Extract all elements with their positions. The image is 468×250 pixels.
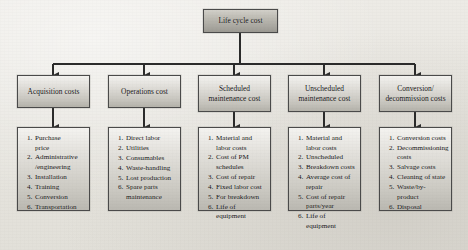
life-cycle-cost-diagram: Life cycle cost Acquisition costs Operat… xyxy=(0,0,468,250)
list-item: Waste/by-product xyxy=(396,183,447,202)
list-item: Spare parts maintenance xyxy=(125,183,176,202)
branch-items-scheduled-maintenance-cost: Material and labor costs Cost of PM sche… xyxy=(198,127,271,211)
list-item: Cleaning of state xyxy=(396,173,447,183)
branch-items-unscheduled-maintenance-cost: Material and labor costs Unscheduled Bre… xyxy=(288,127,361,211)
list-item: Lost production xyxy=(125,174,176,184)
list-item: Transportation xyxy=(34,203,85,213)
branch-heading-operations-cost: Operations cost xyxy=(108,75,181,108)
list-item: Consumables xyxy=(125,154,176,164)
list-item: Training xyxy=(34,183,85,193)
root-box-life-cycle-cost: Life cycle cost xyxy=(203,9,278,33)
list-item: Life of equipment xyxy=(305,212,356,231)
list-item: Waste-handling xyxy=(125,164,176,174)
list-item: Material and labor costs xyxy=(215,134,266,153)
branch-items-conversion-decommission-costs: Conversion costs Decommissioning costs S… xyxy=(379,127,452,211)
list-item: Cost of repair xyxy=(215,173,266,183)
item-list: Material and labor costs Unscheduled Bre… xyxy=(294,134,356,231)
list-item: Installation xyxy=(34,173,85,183)
branch-heading-conversion-decommission-costs: Conversion/ decommission costs xyxy=(379,75,452,112)
list-item: Cost of PM schedules xyxy=(215,153,266,172)
item-list: Purchase price Administrative /engineeri… xyxy=(23,134,85,212)
list-item: Utilities xyxy=(125,144,176,154)
list-item: Average cost of repair xyxy=(305,173,356,192)
root-box-label: Life cycle cost xyxy=(215,16,265,25)
branch-heading-unscheduled-maintenance-cost: Unscheduled maintenance cost xyxy=(288,75,361,112)
item-list: Direct labor Utilities Consumables Waste… xyxy=(114,134,176,203)
branch-items-operations-cost: Direct labor Utilities Consumables Waste… xyxy=(108,127,181,211)
branch-heading-label: Acquisition costs xyxy=(25,87,83,96)
list-item: Life of equipment xyxy=(215,203,266,222)
list-item: Conversion xyxy=(34,193,85,203)
list-item: Material and labor costs xyxy=(305,134,356,153)
list-item: Cost of repair parts/year xyxy=(305,193,356,212)
branch-heading-scheduled-maintenance-cost: Scheduled maintenance cost xyxy=(198,75,271,112)
list-item: Fixed labor cost xyxy=(215,183,266,193)
list-item: Administrative /engineering xyxy=(34,153,85,172)
branch-items-acquisition-costs: Purchase price Administrative /engineeri… xyxy=(17,127,90,211)
list-item: Direct labor xyxy=(125,134,176,144)
branch-heading-acquisition-costs: Acquisition costs xyxy=(17,75,90,108)
list-item: Salvage costs xyxy=(396,163,447,173)
list-item: Conversion costs xyxy=(396,134,447,144)
branch-heading-label: Conversion/ decommission costs xyxy=(380,84,451,102)
list-item: Disposal xyxy=(396,203,447,213)
list-item: For breakdown xyxy=(215,193,266,203)
branch-heading-label: Scheduled maintenance cost xyxy=(199,84,270,102)
branch-heading-label: Operations cost xyxy=(118,87,171,96)
item-list: Material and labor costs Cost of PM sche… xyxy=(204,134,266,222)
list-item: Decommissioning costs xyxy=(396,144,447,163)
list-item: Breakdown costs xyxy=(305,163,356,173)
list-item: Purchase price xyxy=(34,134,85,153)
item-list: Conversion costs Decommissioning costs S… xyxy=(385,134,447,212)
branch-heading-label: Unscheduled maintenance cost xyxy=(289,84,360,102)
list-item: Unscheduled xyxy=(305,153,356,163)
